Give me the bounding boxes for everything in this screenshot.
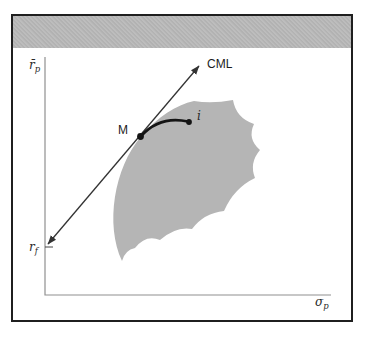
asset-i-point xyxy=(186,119,192,125)
asset-i-label: i xyxy=(197,109,201,123)
x-axis-label: σp xyxy=(315,295,329,311)
riskfree-rate-label: rf xyxy=(29,240,40,256)
market-portfolio-point xyxy=(137,133,144,140)
figure-canvas: CML M i r̄p rf σp xyxy=(0,0,366,344)
capital-market-line-diagram: CML M i r̄p rf σp xyxy=(0,0,366,344)
market-portfolio-label: M xyxy=(118,123,128,137)
cml-label: CML xyxy=(207,57,233,71)
feasible-set-region xyxy=(113,100,260,261)
y-axis-label: r̄p xyxy=(29,58,41,74)
